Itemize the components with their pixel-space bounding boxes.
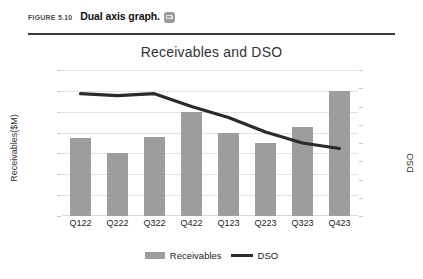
x-tick-label-q123: Q123 <box>210 218 247 228</box>
x-tick-label-q223: Q223 <box>247 218 284 228</box>
y-tick-mark-left <box>57 216 61 217</box>
y-tick-mark-right <box>359 161 363 162</box>
y-tick-mark-right <box>359 198 363 199</box>
figure-title: Dual axis graph. <box>80 10 160 22</box>
y-tick-mark-right <box>359 143 363 144</box>
y-tick-mark-right <box>359 70 363 71</box>
y-tick-mark-right <box>359 88 363 89</box>
caption-divider <box>28 33 395 35</box>
x-tick-label-q323: Q323 <box>284 218 321 228</box>
chart-title: Receivables and DSO <box>0 44 423 60</box>
y-tick-mark-right <box>359 125 363 126</box>
legend-item-receivables: Receivables <box>145 250 222 261</box>
y-tick-mark-left <box>57 91 61 92</box>
x-tick-label-q122: Q122 <box>62 218 99 228</box>
legend-item-dso: DSO <box>231 250 279 261</box>
y-tick-mark-left <box>57 70 61 71</box>
y-axis-label-left: Receivables($M) <box>9 114 19 182</box>
legend-label-dso: DSO <box>258 250 279 261</box>
line-series-dso <box>62 70 358 216</box>
chart-container: Receivables and DSO Receivables($M) DSO … <box>0 38 423 279</box>
y-tick-mark-right <box>359 216 363 217</box>
x-tick-label-q423: Q423 <box>321 218 358 228</box>
legend-label-receivables: Receivables <box>170 250 222 261</box>
figure-number: FIGURE 5.10 <box>28 13 72 22</box>
y-tick-mark-right <box>359 180 363 181</box>
y-tick-mark-right <box>359 107 363 108</box>
legend-swatch-line-icon <box>231 254 253 257</box>
figure-caption: FIGURE 5.10 Dual axis graph. <box>28 10 175 22</box>
figure-page: FIGURE 5.10 Dual axis graph. Receivables… <box>0 0 423 279</box>
x-axis-tick-labels: Q122Q222Q322Q422Q123Q223Q323Q423 <box>62 218 358 228</box>
chart-legend: Receivables DSO <box>0 250 423 261</box>
y-tick-mark-left <box>57 174 61 175</box>
y-tick-mark-left <box>57 133 61 134</box>
legend-swatch-bar-icon <box>145 252 165 259</box>
media-thumbnail-icon <box>164 12 175 23</box>
y-tick-mark-left <box>57 153 61 154</box>
y-axis-label-right: DSO <box>405 153 415 173</box>
x-tick-label-q322: Q322 <box>136 218 173 228</box>
y-tick-mark-left <box>57 195 61 196</box>
x-tick-label-q422: Q422 <box>173 218 210 228</box>
y-tick-mark-left <box>57 112 61 113</box>
x-tick-label-q222: Q222 <box>99 218 136 228</box>
